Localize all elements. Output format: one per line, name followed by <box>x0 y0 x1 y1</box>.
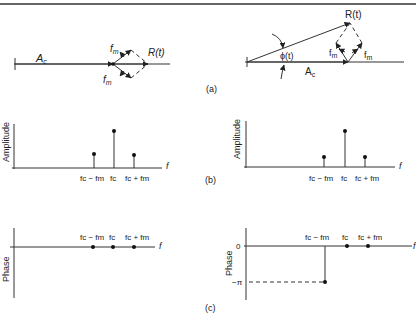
x-axis-label: f <box>399 161 403 171</box>
resultant-label: R(t) <box>345 9 362 20</box>
y-axis-label: Phase <box>1 256 11 282</box>
panel-label-b: (b) <box>205 175 216 185</box>
sideband-phasor-left <box>336 43 348 62</box>
panel-label-c: (c) <box>205 303 216 313</box>
tick-fc-plus-fm: fc + fm <box>125 233 150 242</box>
tick-fc: fc <box>109 233 115 242</box>
modulation-phasor-spectrum-figure: Ac fm fm R(t) R(t) ϕ(t) Ac fm fm (a) <box>0 0 416 317</box>
tick-fc: fc <box>342 233 348 242</box>
tick-fc: fc <box>110 174 116 183</box>
tick-fc-minus-fm: fc − fm <box>80 174 105 183</box>
fm-left-label: fm <box>329 48 338 59</box>
rotation-arrow-icon <box>339 49 345 52</box>
fm-upper-label: fm <box>110 43 119 55</box>
tick-fc-minus-fm: fc − fm <box>309 174 334 183</box>
carrier-amplitude-label: Ac <box>305 66 316 78</box>
x-axis-label: f <box>166 161 170 171</box>
rotation-arrow-icon <box>120 52 124 57</box>
phase-spectrum-am: Phase f fc − fm fc fc + fm <box>1 228 163 298</box>
resultant-label: R(t) <box>148 47 165 58</box>
phase-angle-label: ϕ(t) <box>280 51 294 61</box>
angle-arrow-icon <box>281 65 284 79</box>
phasor-nbfm: R(t) ϕ(t) Ac fm fm <box>245 9 404 79</box>
amplitude-spectrum-am: Amplitude f fc − fm fc fc + fm <box>1 122 170 183</box>
y-tick-minus-pi: −π <box>232 278 243 287</box>
y-tick-zero: 0 <box>236 242 241 251</box>
carrier-amplitude-label: Ac <box>35 52 47 65</box>
tick-fc-plus-fm: fc + fm <box>358 233 383 242</box>
angle-arrow-icon <box>272 34 283 48</box>
y-axis-label: Phase <box>224 250 234 276</box>
phase-spectrum-nbfm: 0 −π Phase f fc − fm fc fc + fm <box>224 228 416 300</box>
x-axis-label: f <box>159 241 163 251</box>
tick-fc-plus-fm: fc + fm <box>355 174 380 183</box>
rotation-arrow-icon <box>120 71 124 76</box>
fm-lower-label: fm <box>103 74 112 86</box>
sideband-phasor-right <box>348 43 362 62</box>
fm-right-label: fm <box>364 50 373 61</box>
y-axis-label: Amplitude <box>232 119 242 159</box>
amplitude-spectrum-nbfm: Amplitude f fc − fm fc fc + fm <box>232 119 403 183</box>
panel-label-a: (a) <box>206 84 217 94</box>
tick-fc-plus-fm: fc + fm <box>125 174 150 183</box>
y-axis-label: Amplitude <box>1 122 11 162</box>
tick-fc-minus-fm: fc − fm <box>80 233 105 242</box>
tick-fc-minus-fm: fc − fm <box>305 233 330 242</box>
phasor-am: Ac fm fm R(t) <box>14 43 170 86</box>
lower-sideband-phasor <box>113 64 131 78</box>
tick-fc: fc <box>341 174 347 183</box>
